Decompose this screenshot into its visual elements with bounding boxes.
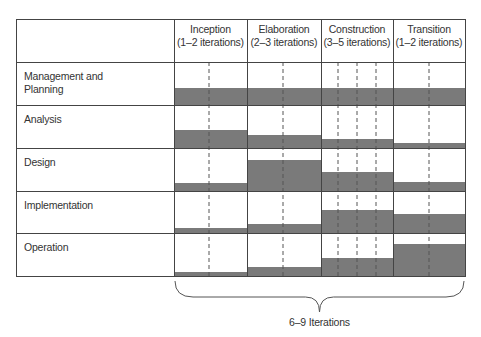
effort-bar [247, 224, 321, 233]
effort-bar [174, 88, 247, 105]
discipline-label: Management andPlanning [24, 70, 103, 96]
discipline-label: Implementation [24, 199, 93, 212]
phase-name: Transition [393, 23, 465, 36]
discipline-label: Operation [24, 241, 68, 254]
iteration-phase-diagram: Inception(1–2 iterations)Elaboration(2–3… [0, 0, 481, 337]
discipline-label-line: Planning [24, 83, 103, 96]
discipline-label-line: Management and [24, 70, 103, 83]
effort-bar [174, 183, 247, 191]
phase-name: Construction [321, 23, 393, 36]
effort-bar [247, 267, 321, 276]
phase-name: Inception [174, 23, 247, 36]
discipline-label-line: Analysis [24, 113, 62, 126]
phase-grid [0, 0, 481, 337]
effort-bar [247, 160, 321, 191]
discipline-label-line: Operation [24, 241, 68, 254]
curly-brace-icon [175, 281, 464, 312]
discipline-label-line: Implementation [24, 199, 93, 212]
discipline-label: Design [24, 156, 55, 169]
phase-iterations: (1–2 iterations) [170, 36, 251, 49]
phase-name: Elaboration [247, 23, 321, 36]
phase-header-elaboration: Elaboration(2–3 iterations) [247, 23, 321, 49]
effort-bar [321, 210, 393, 233]
discipline-label: Analysis [24, 113, 62, 126]
discipline-label-line: Design [24, 156, 55, 169]
phase-iterations: (3–5 iterations) [317, 36, 397, 49]
phase-iterations: (1–2 iterations) [389, 36, 469, 49]
total-iterations-label: 6–9 Iterations [260, 316, 380, 328]
effort-bar [174, 130, 247, 148]
phase-iterations: (2–3 iterations) [243, 36, 325, 49]
phase-header-inception: Inception(1–2 iterations) [174, 23, 247, 49]
phase-header-transition: Transition(1–2 iterations) [393, 23, 465, 49]
effort-bar [247, 88, 321, 105]
effort-bar [174, 228, 247, 233]
phase-header-construction: Construction(3–5 iterations) [321, 23, 393, 49]
effort-bar [247, 135, 321, 148]
effort-bar [174, 272, 247, 276]
